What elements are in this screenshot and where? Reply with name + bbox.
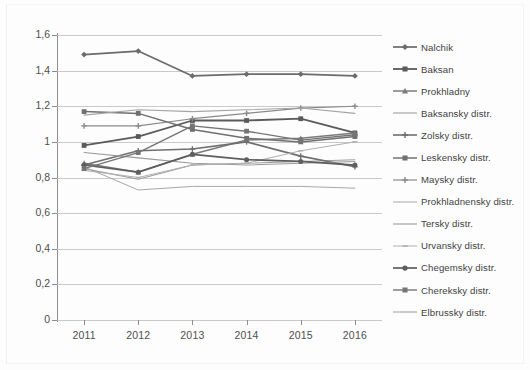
legend-label: Baksan	[421, 64, 454, 75]
legend-marker-icon	[392, 218, 418, 230]
series-marker	[82, 109, 87, 114]
legend-label: Chereksky distr.	[421, 285, 491, 296]
legend-item-chegemsky-distr[interactable]: Chegemsky distr.	[392, 257, 528, 279]
series-line	[84, 108, 355, 115]
legend-marker-icon	[392, 107, 418, 119]
legend-label: Chegemsky distr.	[421, 262, 496, 273]
legend-item-elbrussky-distr[interactable]: Elbrussky distr.	[392, 301, 528, 323]
legend-marker-icon	[392, 284, 418, 296]
legend-item-maysky-distr[interactable]: Maysky distr.	[392, 169, 528, 191]
series-marker	[190, 123, 195, 128]
legend-item-baksan[interactable]: Baksan	[392, 58, 528, 80]
legend-item-chereksky-distr[interactable]: Chereksky distr.	[392, 279, 528, 301]
series-marker	[135, 48, 141, 54]
legend-marker-icon	[392, 306, 418, 318]
legend-marker-icon	[392, 152, 418, 164]
legend-marker-icon	[392, 262, 418, 274]
series-marker	[244, 71, 250, 77]
legend-item-nalchik[interactable]: Nalchik	[392, 36, 528, 58]
series-marker	[352, 163, 357, 168]
legend-item-baksansky-distr[interactable]: Baksansky distr.	[392, 102, 528, 124]
legend-marker-icon	[392, 240, 418, 252]
series-marker	[135, 123, 141, 129]
series-marker	[82, 166, 87, 171]
legend-marker-icon	[392, 129, 418, 141]
legend-label: Leskensky distr.	[421, 152, 491, 163]
series-marker	[352, 103, 358, 109]
legend: NalchikBaksanProkhladnyBaksansky distr.Z…	[392, 36, 528, 323]
legend-item-zolsky-distr[interactable]: Zolsky distr.	[392, 124, 528, 146]
series-marker	[244, 129, 249, 134]
series-marker	[298, 138, 303, 143]
series-marker	[244, 118, 249, 123]
legend-label: Prokhladny	[421, 86, 470, 97]
legend-label: Prokhladnensky distr.	[421, 196, 514, 207]
legend-label: Maysky distr.	[421, 174, 478, 185]
series-marker	[298, 153, 304, 159]
legend-label: Urvansky distr.	[421, 240, 485, 251]
series-marker	[298, 159, 303, 164]
legend-label: Elbrussky distr.	[421, 307, 487, 318]
legend-marker-icon	[392, 41, 418, 53]
legend-marker-icon	[392, 174, 418, 186]
series-line	[82, 116, 358, 148]
series-marker	[136, 111, 141, 116]
series-marker	[298, 116, 303, 121]
legend-item-leskensky-distr[interactable]: Leskensky distr.	[392, 146, 528, 168]
legend-marker-icon	[392, 63, 418, 75]
legend-label: Baksansky distr.	[421, 108, 492, 119]
series-marker	[136, 150, 141, 155]
legend-marker-icon	[392, 196, 418, 208]
legend-label: Tersky distr.	[421, 218, 473, 229]
series-marker	[136, 170, 141, 175]
series-marker	[352, 73, 358, 79]
legend-label: Nalchik	[421, 42, 453, 53]
legend-item-prokhladny[interactable]: Prokhladny	[392, 80, 528, 102]
legend-label: Zolsky distr.	[421, 130, 473, 141]
series-marker	[353, 132, 358, 137]
series-marker	[244, 111, 250, 117]
series-line	[81, 130, 358, 175]
series-line	[81, 48, 358, 79]
series-line	[81, 139, 357, 170]
series-line	[81, 103, 357, 128]
series-marker	[298, 71, 304, 77]
series-marker	[136, 134, 141, 139]
series-marker	[244, 157, 249, 162]
legend-item-prokhladnensky-distr[interactable]: Prokhladnensky distr.	[392, 191, 528, 213]
series-marker	[81, 123, 87, 129]
chart-container: 00,20,40,60,811,21,41,6 2011201220132014…	[0, 0, 530, 370]
series-marker	[190, 146, 196, 152]
series-marker	[190, 152, 195, 157]
legend-item-tersky-distr[interactable]: Tersky distr.	[392, 213, 528, 235]
series-marker	[190, 73, 196, 79]
legend-marker-icon	[392, 85, 418, 97]
legend-item-urvansky-distr[interactable]: Urvansky distr.	[392, 235, 528, 257]
series-marker	[81, 52, 87, 58]
series-marker	[244, 136, 249, 141]
series-marker	[82, 143, 87, 148]
